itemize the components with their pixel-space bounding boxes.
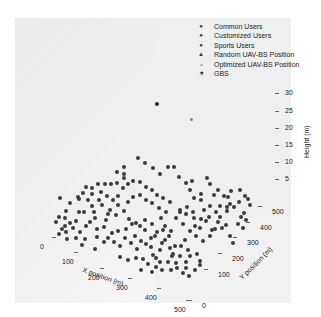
x-axis-tick-label: 500 (174, 306, 186, 313)
user-point (83, 237, 87, 241)
z-axis-tick-mark (275, 179, 279, 180)
user-point (138, 193, 142, 197)
user-point (175, 266, 179, 270)
user-point (210, 228, 214, 232)
user-point (95, 227, 99, 231)
user-point (202, 208, 206, 212)
user-point (150, 188, 154, 192)
user-point (177, 175, 181, 179)
user-point (138, 224, 142, 228)
user-point (168, 246, 172, 250)
user-point (77, 197, 81, 201)
user-point (168, 200, 172, 204)
user-point (241, 226, 245, 230)
user-point (106, 236, 110, 240)
user-point (178, 254, 182, 258)
user-point (214, 210, 218, 214)
user-point (188, 188, 192, 192)
user-point (178, 210, 182, 214)
user-point (131, 179, 135, 183)
user-point (169, 268, 173, 272)
user-point (185, 205, 189, 209)
user-point (154, 265, 158, 269)
y-axis-tick-label: 300 (247, 239, 259, 246)
user-point (122, 176, 126, 180)
user-point (136, 156, 140, 160)
user-point (199, 198, 203, 202)
user-point (88, 220, 92, 224)
user-point (144, 185, 148, 189)
user-point (133, 234, 137, 238)
user-point (138, 180, 142, 184)
user-point (80, 243, 84, 247)
user-point (99, 190, 103, 194)
user-point (71, 226, 75, 230)
user-point (109, 182, 113, 186)
user-point (63, 216, 67, 220)
user-point (188, 254, 192, 258)
user-point (90, 192, 94, 196)
user-point (184, 212, 188, 216)
user-point (150, 222, 154, 226)
user-point (106, 212, 110, 216)
user-point (174, 261, 178, 265)
z-axis-tick-label: 15 (285, 141, 293, 148)
user-point (191, 210, 195, 214)
user-point (237, 200, 241, 204)
circle-marker-icon: ● (196, 31, 206, 40)
user-point (57, 232, 61, 236)
z-axis-tick-mark (275, 111, 279, 112)
user-point (199, 192, 203, 196)
user-point (154, 256, 158, 260)
z-axis-tick-mark (275, 145, 279, 146)
z-axis-label: Height (m) (303, 125, 310, 158)
user-point (161, 196, 165, 200)
y-axis-tick-label: 100 (218, 271, 230, 278)
user-point (114, 213, 118, 217)
user-point (188, 229, 192, 233)
user-point (139, 239, 143, 243)
user-point (97, 198, 101, 202)
user-point (74, 219, 78, 223)
user-point (102, 240, 106, 244)
user-point (169, 229, 173, 233)
user-point (60, 227, 64, 231)
user-point (111, 198, 115, 202)
user-point (134, 221, 138, 225)
user-point (82, 210, 86, 214)
y-axis-tick-label: 200 (232, 255, 244, 262)
user-point (187, 274, 191, 278)
user-point (151, 166, 155, 170)
user-point (216, 220, 220, 224)
user-point (68, 201, 72, 205)
user-point (100, 203, 104, 207)
user-point (239, 215, 243, 219)
user-point (84, 185, 88, 189)
user-point (173, 244, 177, 248)
user-point (143, 218, 147, 222)
user-point (96, 182, 100, 186)
user-point (160, 268, 164, 272)
optimized-uav-marker (190, 118, 193, 121)
user-point (181, 271, 185, 275)
x-axis-tick-mark (100, 268, 104, 269)
chart-legend: ● Common Users ● Customized Users ● Spor… (196, 22, 299, 78)
user-point (129, 241, 133, 245)
user-point (238, 188, 242, 192)
y-axis-tick-mark (188, 300, 192, 301)
user-point (192, 216, 196, 220)
user-point (116, 194, 120, 198)
user-point (229, 189, 233, 193)
y-axis-tick-label: 0 (202, 302, 206, 309)
x-axis-tick-mark (52, 237, 56, 238)
user-point (183, 238, 187, 242)
user-point (126, 200, 130, 204)
user-point (199, 217, 203, 221)
x-axis-tick-mark (157, 288, 161, 289)
user-point (201, 239, 205, 243)
user-point (248, 203, 252, 207)
user-point (104, 218, 108, 222)
user-point (124, 227, 128, 231)
user-point (174, 216, 178, 220)
user-point (161, 228, 165, 232)
